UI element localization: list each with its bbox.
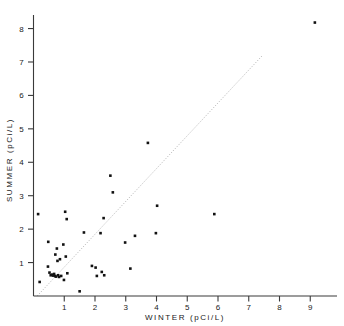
data-point bbox=[66, 272, 69, 275]
data-point bbox=[47, 265, 50, 268]
y-tick-label: 6 bbox=[19, 91, 24, 100]
x-axis-title: WINTER (pCi/L) bbox=[145, 313, 225, 322]
data-point bbox=[112, 191, 115, 194]
y-tick-label: 4 bbox=[19, 158, 24, 167]
scatter-plot-figure: 123456789 12345678 WINTER (pCi/L) SUMMER… bbox=[0, 0, 344, 326]
x-axis-ticks: 123456789 bbox=[62, 296, 313, 312]
x-tick-label: 2 bbox=[93, 303, 98, 312]
y-tick-label: 7 bbox=[19, 58, 24, 67]
data-point bbox=[99, 232, 102, 235]
data-point bbox=[56, 260, 59, 263]
data-point bbox=[134, 235, 137, 238]
data-point bbox=[314, 21, 317, 24]
y-axis-ticks: 12345678 bbox=[19, 25, 33, 268]
data-point bbox=[78, 290, 81, 293]
x-tick-label: 8 bbox=[277, 303, 282, 312]
data-point bbox=[47, 241, 50, 244]
data-point bbox=[38, 281, 41, 284]
data-point bbox=[48, 271, 51, 274]
x-tick-label: 9 bbox=[308, 303, 313, 312]
reference-identity-line bbox=[37, 55, 262, 296]
data-point bbox=[109, 174, 112, 177]
data-point bbox=[37, 213, 40, 216]
x-tick-label: 3 bbox=[123, 303, 128, 312]
plot-axes bbox=[34, 15, 338, 296]
data-point bbox=[54, 253, 57, 256]
data-point bbox=[156, 204, 159, 207]
x-tick-label: 5 bbox=[185, 303, 190, 312]
x-tick-label: 4 bbox=[154, 303, 159, 312]
y-axis-title: SUMMER (pCi/L) bbox=[5, 118, 14, 202]
data-point bbox=[63, 279, 66, 282]
data-point bbox=[64, 255, 67, 258]
data-point bbox=[102, 217, 105, 220]
data-point bbox=[83, 231, 86, 234]
data-point bbox=[100, 271, 103, 274]
x-tick-label: 7 bbox=[246, 303, 251, 312]
data-points-group bbox=[37, 21, 316, 292]
data-point bbox=[62, 243, 65, 246]
data-point bbox=[94, 266, 97, 269]
y-tick-label: 1 bbox=[19, 259, 24, 268]
data-point bbox=[65, 218, 68, 221]
data-point bbox=[155, 232, 158, 235]
data-point bbox=[60, 275, 63, 278]
data-point bbox=[147, 142, 150, 145]
data-point bbox=[124, 241, 127, 244]
y-tick-label: 3 bbox=[19, 192, 24, 201]
y-tick-label: 5 bbox=[19, 125, 24, 134]
data-point bbox=[129, 267, 132, 270]
data-point bbox=[213, 213, 216, 216]
x-tick-label: 1 bbox=[62, 303, 67, 312]
y-tick-label: 2 bbox=[19, 225, 24, 234]
scatter-plot-svg: 123456789 12345678 WINTER (pCi/L) SUMMER… bbox=[0, 0, 344, 326]
data-point bbox=[59, 258, 62, 261]
y-tick-label: 8 bbox=[19, 25, 24, 34]
x-tick-label: 6 bbox=[216, 303, 221, 312]
data-point bbox=[64, 210, 67, 213]
data-point bbox=[103, 274, 106, 277]
data-point bbox=[91, 265, 94, 268]
data-point bbox=[56, 247, 59, 250]
data-point bbox=[96, 275, 99, 278]
